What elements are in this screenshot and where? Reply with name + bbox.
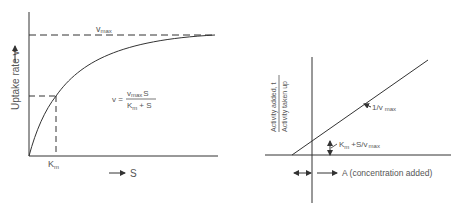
- slope-label: 1/vmax: [372, 103, 396, 112]
- mm-equation: v = vmaxS Km+ S: [112, 89, 156, 111]
- diagram-canvas: Uptake rate v vmax Km S v = vmaxS Km+ S …: [0, 0, 458, 213]
- svg-text:Activity taken up: Activity taken up: [281, 81, 289, 132]
- svg-text:Activity added, t: Activity added, t: [270, 83, 278, 132]
- intercept-label: Km+S/vmax: [339, 140, 380, 150]
- km-label: Km: [48, 159, 59, 170]
- svg-text:v =: v =: [112, 95, 123, 104]
- activity-ratio-label: Activity added, t Activity taken up: [270, 75, 289, 132]
- svg-text:vmaxS: vmaxS: [127, 89, 149, 98]
- slope-pointer-arrow: [364, 104, 371, 107]
- michaelis-menten-plot: Uptake rate v vmax Km S v = vmaxS Km+ S: [10, 12, 218, 179]
- a-axis-label: A (concentration added): [342, 168, 432, 178]
- linear-transform-plot: Activity added, t Activity taken up 1/vm…: [265, 57, 451, 203]
- vmax-label: vmax: [96, 24, 112, 34]
- svg-text:Km+ S: Km+ S: [127, 101, 152, 111]
- s-label: S: [130, 168, 137, 179]
